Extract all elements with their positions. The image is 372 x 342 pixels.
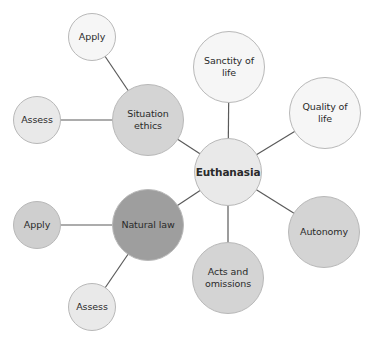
node-sanctity-of-life: Sanctity of life (193, 31, 265, 103)
node-acts-and-omissions: Acts and omissions (192, 242, 264, 314)
node-label: Autonomy (296, 226, 352, 238)
node-euthanasia-center: Euthanasia (194, 138, 262, 206)
node-quality-of-life: Quality of life (289, 77, 361, 149)
connector-lines (0, 0, 372, 342)
node-situation-ethics: Situation ethics (112, 84, 184, 156)
node-natural-law-assess: Assess (68, 283, 116, 331)
node-label: Apply (75, 31, 109, 43)
node-situation-ethics-assess: Assess (13, 96, 61, 144)
node-label: Sanctity of life (194, 55, 264, 79)
node-situation-ethics-apply: Apply (68, 13, 116, 61)
node-label: Assess (17, 114, 57, 126)
node-label: Assess (72, 301, 112, 313)
node-label: Situation ethics (113, 108, 183, 132)
node-label: Acts and omissions (199, 266, 257, 290)
node-label: Quality of life (290, 101, 360, 125)
node-natural-law-apply: Apply (13, 201, 61, 249)
node-label: Euthanasia (192, 166, 265, 178)
node-autonomy: Autonomy (288, 196, 360, 268)
node-natural-law: Natural law (112, 189, 184, 261)
node-label: Natural law (117, 219, 178, 231)
node-label: Apply (20, 219, 54, 231)
